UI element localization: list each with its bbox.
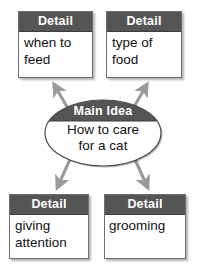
main-idea-ellipse[interactable]: Main Idea How to care for a cat — [44, 99, 162, 167]
detail-body-text: giving attention — [10, 215, 88, 253]
detail-box-top-right[interactable]: Detail type of food — [106, 11, 182, 78]
detail-header-label: Detail — [107, 12, 181, 32]
main-idea-diagram: Detail when to feed Detail type of food — [0, 0, 203, 264]
detail-text-line-2: food — [112, 51, 181, 68]
detail-box-bottom-left[interactable]: Detail giving attention — [9, 194, 89, 259]
detail-text-line-1: when to — [24, 34, 92, 51]
detail-header-label: Detail — [19, 12, 92, 32]
detail-text-line-2: feed — [24, 51, 92, 68]
detail-text-line-1: grooming — [109, 217, 185, 234]
detail-header-label: Detail — [10, 195, 88, 215]
ellipse-shape — [44, 99, 162, 167]
detail-text-line-1: giving — [15, 217, 88, 234]
detail-body-text: when to feed — [19, 32, 92, 70]
detail-box-bottom-right[interactable]: Detail grooming — [104, 194, 186, 259]
detail-text-line-1: type of — [112, 34, 181, 51]
detail-box-top-left[interactable]: Detail when to feed — [18, 11, 93, 78]
detail-body-text: type of food — [107, 32, 181, 70]
detail-text-line-2: attention — [15, 234, 88, 251]
detail-body-text: grooming — [105, 215, 185, 236]
detail-header-label: Detail — [105, 195, 185, 215]
